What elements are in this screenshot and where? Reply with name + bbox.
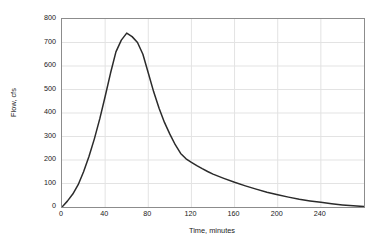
y-axis-title: Flow, cfs: [9, 68, 18, 138]
x-tick-label-240: 240: [300, 209, 340, 218]
flow-curve: [62, 19, 364, 207]
x-tick-label-80: 80: [127, 209, 167, 218]
x-tick-label-160: 160: [214, 209, 254, 218]
x-axis-tick-labels: 04080120160200240: [61, 209, 363, 221]
plot-area: [61, 18, 365, 208]
hydrograph-chart: 8007006005004003002001000 04080120160200…: [0, 0, 384, 250]
x-tick-label-40: 40: [84, 209, 124, 218]
flow-curve-line: [62, 33, 364, 207]
y-tick-label-700: 700: [4, 38, 56, 46]
x-tick-label-120: 120: [170, 209, 210, 218]
x-axis-title: Time, minutes: [61, 226, 363, 235]
y-tick-label-200: 200: [4, 155, 56, 163]
x-tick-label-200: 200: [257, 209, 297, 218]
y-tick-label-100: 100: [4, 179, 56, 187]
x-tick-label-0: 0: [41, 209, 81, 218]
y-tick-label-800: 800: [4, 14, 56, 22]
